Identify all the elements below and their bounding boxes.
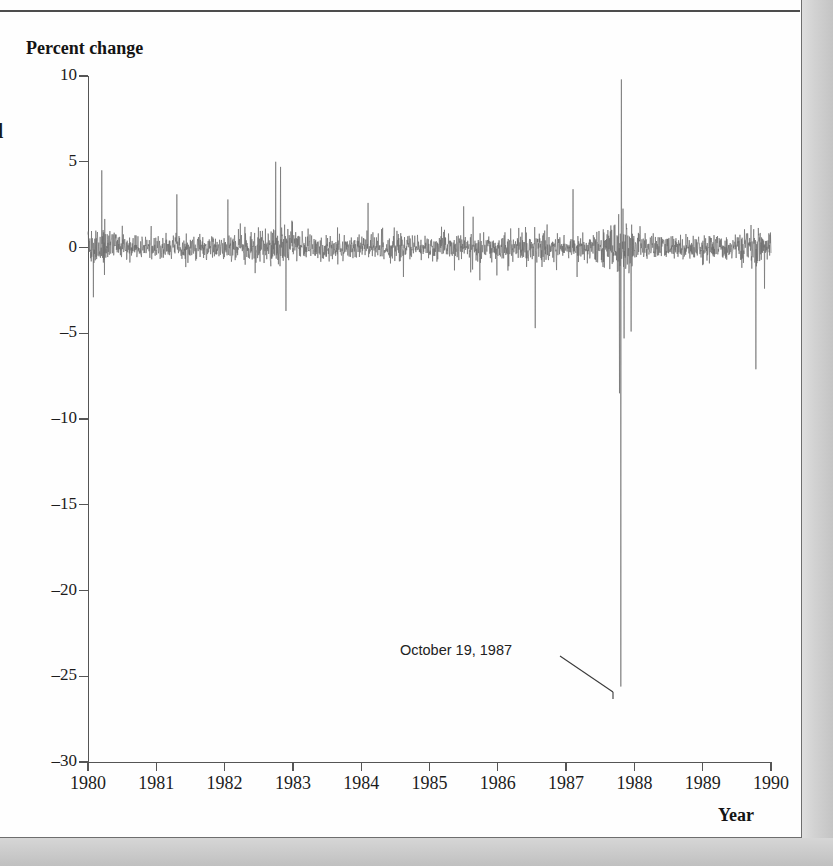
series-line bbox=[88, 79, 771, 686]
stock-percent-change-chart: Percent change Year 1050–5–10–15–20–25–3… bbox=[0, 0, 802, 838]
page-right-margin bbox=[802, 0, 833, 866]
series-plot bbox=[0, 0, 802, 838]
crash-annotation-label: October 19, 1987 bbox=[400, 642, 512, 658]
page-bottom-margin bbox=[0, 838, 833, 866]
scanned-page: d Percent change Year 1050–5–10–15–20–25… bbox=[0, 0, 802, 838]
